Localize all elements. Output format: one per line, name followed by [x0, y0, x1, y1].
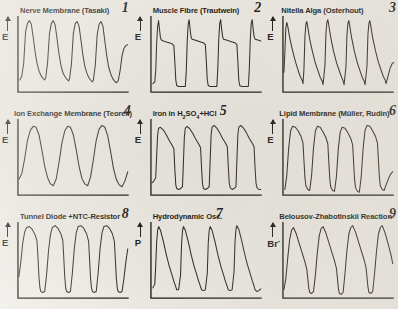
- panel-title: Nitella Alga (Osterhout): [281, 7, 363, 15]
- y-axis-arrow-icon: [7, 120, 8, 134]
- y-axis-arrow-icon: [7, 17, 8, 31]
- waveform-plot: [282, 118, 395, 196]
- panel-tunnel-diode: Tunnel Diode +NTC-Resistor 8 E: [0, 206, 133, 309]
- y-axis-arrow-icon: [140, 17, 141, 31]
- y-axis-label: E: [135, 135, 141, 145]
- panel-number: 1: [122, 1, 129, 15]
- waveform-plot: [150, 221, 263, 299]
- y-axis-label: E: [2, 32, 8, 42]
- panel-number: 3: [389, 1, 396, 15]
- y-axis-label-text: Br: [267, 238, 278, 249]
- y-axis-label: Br-: [267, 238, 280, 249]
- y-axis-label: E: [267, 32, 273, 42]
- waveform-plot: [17, 221, 130, 299]
- panel-belousov-zhabotinskii: Belousov-Zhabotinskii Reaction 9 Br-: [265, 206, 398, 309]
- y-axis-arrow-icon: [272, 120, 273, 134]
- title-text-prefix: Iron in H: [153, 109, 183, 118]
- panel-number: 6: [389, 104, 396, 118]
- y-axis-arrow-icon: [140, 223, 141, 237]
- panel-title: Ion Exchange Membrane (Teorell): [14, 110, 132, 118]
- oscillation-panel-grid: Nerve Membrane (Tasaki) 1 E Muscle Fibre…: [0, 0, 398, 309]
- panel-muscle-fibre: Muscle Fibre (Trautwein) 2 E: [133, 0, 266, 103]
- waveform-plot: [150, 15, 263, 93]
- waveform-plot: [150, 118, 263, 196]
- panel-number: 4: [124, 104, 131, 118]
- title-text-mid: SO: [186, 109, 197, 118]
- y-axis-label: E: [267, 135, 273, 145]
- panel-lipid-membrane: Lipid Membrane (Müller, Rudin) 6 E: [265, 103, 398, 206]
- y-axis-label: E: [2, 238, 8, 248]
- panel-title: Hydrodynamic Osc.: [153, 213, 223, 221]
- y-axis-label-charge: -: [278, 237, 280, 244]
- panel-nerve-membrane: Nerve Membrane (Tasaki) 1 E: [0, 0, 133, 103]
- panel-number: 9: [389, 207, 396, 221]
- panel-hydrodynamic-osc: Hydrodynamic Osc. 7 P: [133, 206, 266, 309]
- panel-title: Belousov-Zhabotinskii Reaction: [279, 213, 392, 221]
- panel-number: 5: [220, 104, 227, 118]
- y-axis-arrow-icon: [272, 17, 273, 31]
- waveform-plot: [282, 221, 395, 299]
- panel-ion-exchange-membrane: Ion Exchange Membrane (Teorell) 4 E: [0, 103, 133, 206]
- y-axis-label: E: [135, 32, 141, 42]
- panel-iron-acid: Iron in H2SO4+HCl 5 E: [133, 103, 266, 206]
- panel-number: 2: [254, 1, 261, 15]
- y-axis-label: P: [135, 238, 141, 248]
- panel-nitella-alga: Nitella Alga (Osterhout) 3 E: [265, 0, 398, 103]
- y-axis-arrow-icon: [272, 223, 273, 237]
- waveform-plot: [282, 15, 395, 93]
- panel-number: 8: [122, 207, 129, 221]
- panel-title: Nerve Membrane (Tasaki): [20, 7, 109, 15]
- y-axis-label: E: [2, 135, 8, 145]
- panel-number: 7: [216, 207, 223, 221]
- title-text-suffix: +HCl: [199, 109, 216, 118]
- panel-title: Lipid Membrane (Müller, Rudin): [279, 110, 389, 118]
- waveform-plot: [17, 118, 130, 196]
- waveform-plot: [17, 15, 130, 93]
- y-axis-arrow-icon: [7, 223, 8, 237]
- y-axis-arrow-icon: [140, 120, 141, 134]
- panel-title: Muscle Fibre (Trautwein): [153, 7, 240, 15]
- panel-title: Tunnel Diode +NTC-Resistor: [20, 213, 120, 221]
